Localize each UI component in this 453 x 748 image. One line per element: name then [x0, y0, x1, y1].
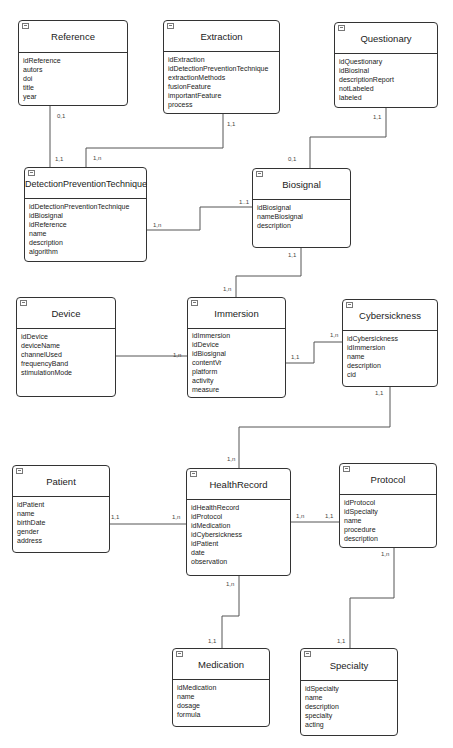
attribute-list: idCybersickness idImmersion name descrip…	[343, 331, 437, 379]
cardinality-label: 1,1	[55, 156, 63, 162]
attribute: title	[23, 83, 123, 92]
attribute: description	[29, 238, 142, 247]
attribute-list: idPatient name birthDate gender address	[13, 497, 109, 545]
attribute: address	[17, 536, 105, 545]
attribute: idBiosignal	[192, 349, 281, 358]
collapse-icon[interactable]	[190, 471, 197, 477]
attribute: specialty	[305, 711, 393, 720]
attribute: idDetectionPreventionTechnique	[29, 202, 142, 211]
attribute: birthDate	[17, 518, 105, 527]
cardinality-label: 1,n	[296, 513, 304, 519]
collapse-icon[interactable]	[343, 466, 350, 472]
attribute: idCybersickness	[347, 334, 433, 343]
attribute: idSpecialty	[344, 507, 432, 516]
attribute: idQuestionary	[339, 57, 433, 66]
entity-detection-prevention-technique[interactable]: DetectionPreventionTechnique idDetection…	[24, 167, 147, 262]
entity-title: Protocol	[340, 474, 436, 485]
collapse-icon[interactable]	[20, 300, 27, 306]
attribute: extractionMethods	[168, 73, 275, 82]
attribute-list: idReference autors doi title year	[19, 53, 127, 101]
entity-reference[interactable]: Reference idReference autors doi title y…	[18, 20, 128, 106]
cardinality-label: 1,1	[111, 514, 119, 520]
attribute: contentVr	[192, 358, 281, 367]
attribute: cid	[347, 370, 433, 379]
attribute: idBiosinal	[339, 66, 433, 75]
attribute: idReference	[29, 220, 142, 229]
entity-device[interactable]: Device idDevice deviceName channelUsed f…	[16, 297, 116, 397]
entity-healthrecord[interactable]: HealthRecord idHealthRecord idProtocol i…	[186, 468, 291, 576]
attribute: idMedication	[177, 683, 265, 692]
attribute: activity	[192, 376, 281, 385]
attribute: procedure	[344, 525, 432, 534]
attribute: idSpecialty	[305, 684, 393, 693]
attribute-list: idHealthRecord idProtocol idMedication i…	[187, 500, 290, 566]
cardinality-label: 1,n	[226, 581, 234, 587]
collapse-icon[interactable]	[176, 651, 183, 657]
attribute: idImmersion	[347, 343, 433, 352]
collapse-icon[interactable]	[346, 302, 353, 308]
entity-title: HealthRecord	[187, 479, 290, 490]
attribute: idDevice	[21, 332, 111, 341]
attribute: importantFeature	[168, 91, 275, 100]
entity-title: DetectionPreventionTechnique	[25, 179, 146, 189]
entity-title: Medication	[173, 659, 269, 670]
cardinality-label: 1,1	[375, 390, 383, 396]
cardinality-label: 1,n	[153, 222, 161, 228]
attribute: doi	[23, 74, 123, 83]
entity-title: Biosignal	[253, 179, 350, 190]
attribute: acting	[305, 720, 393, 729]
entity-title: Reference	[19, 31, 127, 42]
attribute: idHealthRecord	[191, 503, 286, 512]
entity-questionary[interactable]: Questionary idQuestionary idBiosinal des…	[334, 22, 438, 108]
collapse-icon[interactable]	[256, 171, 263, 177]
entity-title: Cybersickness	[343, 310, 437, 321]
attribute-list: idExtraction idDetectionPreventionTechni…	[164, 52, 279, 109]
cardinality-label: 1,n	[330, 332, 338, 338]
cardinality-label: 1,1	[325, 513, 333, 519]
attribute: description	[347, 361, 433, 370]
entity-protocol[interactable]: Protocol idProtocol idSpecialty name pro…	[339, 463, 437, 548]
cardinality-label: 1..1	[239, 199, 249, 205]
cardinality-label: 1,1	[337, 638, 345, 644]
entity-immersion[interactable]: Immersion idImmersion idDevice idBiosign…	[187, 297, 286, 398]
attribute: name	[29, 229, 142, 238]
attribute: description	[257, 221, 346, 230]
link-cybersickness-healthrecord	[239, 386, 390, 468]
attribute: idDevice	[192, 340, 281, 349]
cardinality-label: 1,1	[288, 252, 296, 258]
cardinality-label: 1,n	[381, 551, 389, 557]
attribute: algorithm	[29, 247, 142, 256]
cardinality-label: 1,n	[223, 286, 231, 292]
attribute: measure	[192, 385, 281, 394]
attribute-list: idImmersion idDevice idBiosignal content…	[188, 329, 285, 394]
attribute: idProtocol	[191, 512, 286, 521]
attribute: description	[305, 702, 393, 711]
collapse-icon[interactable]	[191, 300, 198, 306]
attribute: stimulationMode	[21, 368, 111, 377]
entity-extraction[interactable]: Extraction idExtraction idDetectionPreve…	[163, 20, 280, 114]
cardinality-label: 1,1	[373, 114, 381, 120]
entity-medication[interactable]: Medication idMedication name dosage form…	[172, 648, 270, 727]
collapse-icon[interactable]	[16, 468, 23, 474]
attribute: idPatient	[191, 539, 286, 548]
attribute: frequencyBand	[21, 359, 111, 368]
entity-cybersickness[interactable]: Cybersickness idCybersickness idImmersio…	[342, 299, 438, 387]
collapse-icon[interactable]	[167, 23, 174, 29]
collapse-icon[interactable]	[22, 23, 29, 29]
link-extraction-detection	[86, 113, 223, 167]
entity-patient[interactable]: Patient idPatient name birthDate gender …	[12, 465, 110, 553]
attribute-list: idProtocol idSpecialty name procedure de…	[340, 495, 436, 543]
collapse-icon[interactable]	[28, 170, 35, 176]
collapse-icon[interactable]	[338, 25, 345, 31]
attribute: name	[177, 692, 265, 701]
entity-biosignal[interactable]: Biosignal idBiosignal nameBiosignal desc…	[252, 168, 351, 248]
attribute: fusionFeature	[168, 82, 275, 91]
entity-title: Device	[17, 308, 115, 319]
entity-specialty[interactable]: Specialty idSpecialty name description s…	[300, 648, 398, 736]
attribute-list: idSpecialty name description specialty a…	[301, 681, 397, 729]
collapse-icon[interactable]	[304, 651, 311, 657]
attribute: idBiosignal	[257, 203, 346, 212]
cardinality-label: 1,1	[208, 638, 216, 644]
attribute: name	[17, 509, 105, 518]
attribute: nameBiosignal	[257, 212, 346, 221]
